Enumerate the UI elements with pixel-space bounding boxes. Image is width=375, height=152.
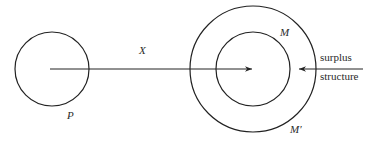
diagram-canvas: X P M M′ surplus structure [0, 0, 375, 152]
label-structure: structure [320, 70, 359, 82]
label-m: M [279, 26, 290, 38]
label-p: P [66, 109, 74, 121]
label-m-prime: M′ [289, 123, 302, 135]
label-x: X [138, 44, 147, 56]
label-surplus: surplus [320, 51, 352, 63]
